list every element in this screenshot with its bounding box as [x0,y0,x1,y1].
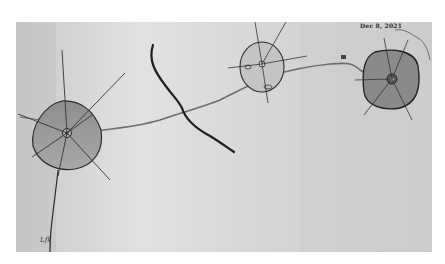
sketch-photo [0,0,445,264]
date-annotation: Dec 8, 2021 [360,22,402,29]
scribble-annotation: Lfk [40,236,51,244]
